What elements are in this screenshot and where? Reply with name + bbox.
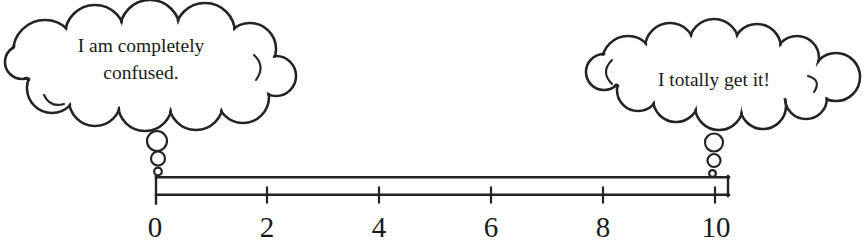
thought-trail-circle-small	[709, 170, 716, 177]
left-thought-trail	[147, 131, 167, 175]
thought-trail-circle-small	[154, 168, 162, 176]
tick-labels: 0 2 4 6 8 10	[148, 211, 731, 243]
number-line: 0 2 4 6 8 10	[148, 176, 731, 243]
left-thought-bubble: I am completely confused.	[5, 0, 296, 175]
tick-label-4: 4	[372, 211, 387, 243]
figure-canvas: I am completely confused.	[0, 0, 865, 245]
tick-label-10: 10	[702, 211, 731, 243]
tick-label-8: 8	[596, 211, 611, 243]
left-bubble-text-line-1: I am completely	[78, 35, 205, 56]
left-bubble-text-line-2: confused.	[103, 62, 178, 83]
thought-trail-circle-large	[147, 131, 167, 151]
thought-trail-circle-large	[705, 134, 723, 152]
right-thought-bubble: I totally get it!	[586, 19, 860, 177]
tick-label-2: 2	[260, 211, 275, 243]
right-thought-trail	[705, 134, 723, 177]
confidence-scale-diagram: I am completely confused.	[0, 0, 865, 245]
tick-label-0: 0	[148, 211, 163, 243]
tick-label-6: 6	[484, 211, 499, 243]
thought-trail-circle-medium	[708, 154, 721, 167]
thought-trail-circle-medium	[151, 152, 165, 166]
right-bubble-text: I totally get it!	[658, 69, 770, 90]
